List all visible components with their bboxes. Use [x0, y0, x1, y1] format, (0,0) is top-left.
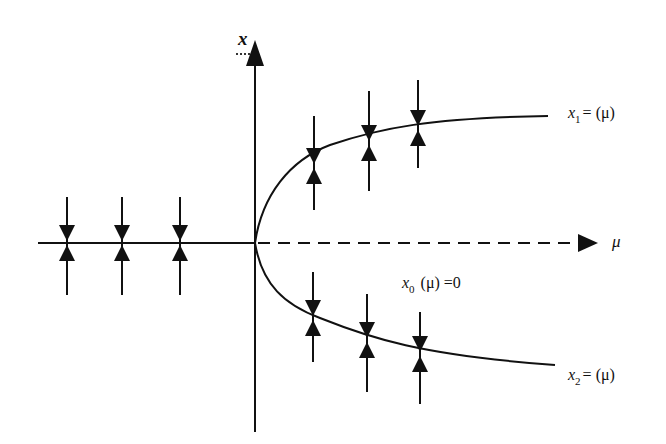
- upper-stability-markers: [306, 80, 426, 210]
- bifurcation-diagram: x μ x1= (μ) x0 (μ) =0 x2= (μ): [0, 0, 666, 444]
- upper-stable-branch: [255, 116, 548, 243]
- lower-branch-label: x2= (μ): [568, 366, 615, 384]
- vertical-axis: [246, 40, 264, 432]
- upper-branch-rest: = (μ): [583, 104, 615, 121]
- lower-branch-rest: = (μ): [583, 366, 615, 383]
- trivial-branch-sub: 0: [409, 283, 415, 295]
- lower-branch-sub: 2: [575, 375, 581, 387]
- vertical-axis-label-underline: [236, 50, 250, 55]
- upper-branch-sub: 1: [575, 113, 581, 125]
- upper-branch-label: x1= (μ): [568, 104, 615, 122]
- diagram-canvas: [0, 0, 666, 444]
- trivial-branch-rest: (μ) =0: [417, 274, 461, 291]
- trivial-branch-label: x0 (μ) =0: [402, 274, 461, 292]
- horizontal-axis-label: μ: [612, 232, 621, 252]
- left-stability-markers: [59, 197, 188, 295]
- lower-stable-branch: [255, 243, 555, 365]
- vertical-axis-label: x: [238, 28, 248, 50]
- horizontal-axis-arrow-icon: [578, 234, 598, 252]
